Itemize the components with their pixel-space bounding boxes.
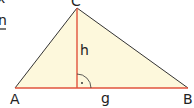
right-angle-dot <box>81 82 83 84</box>
corner-text-underlined: n <box>0 12 7 28</box>
triangle-fill <box>15 8 188 88</box>
vertex-label-c: C <box>71 0 81 9</box>
corner-text-top: x <box>0 0 5 6</box>
vertex-label-b: B <box>183 91 193 107</box>
base-label: g <box>101 90 110 106</box>
triangle-diagram: x n C h A g B <box>0 0 194 108</box>
vertex-label-a: A <box>10 91 20 107</box>
height-label: h <box>80 42 89 58</box>
